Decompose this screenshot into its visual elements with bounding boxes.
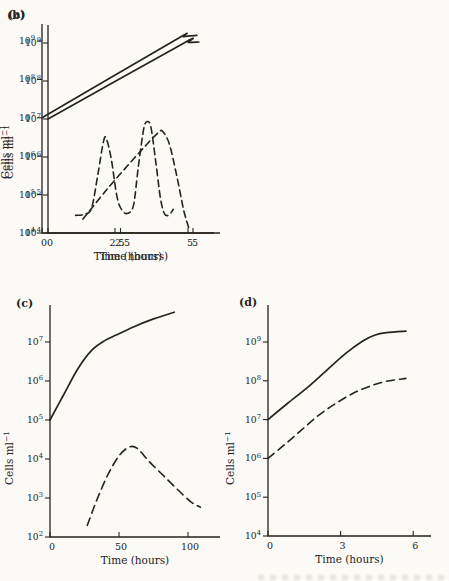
panel-letter: (c) <box>16 297 33 310</box>
x-axis-title: Time (hours) <box>315 553 383 565</box>
y-axis-title: Cells ml−1 <box>2 431 15 485</box>
cropped-caption-fragment <box>258 575 444 580</box>
x-tick-label: 100 <box>181 541 199 552</box>
panel-d-plot: 104105106107108109036Time (hours)Cells m… <box>225 290 449 581</box>
panel-letter: (b) <box>7 9 25 22</box>
y-tick-label: 106 <box>19 150 35 162</box>
dashed-series-line <box>83 130 189 227</box>
solid-series-line <box>268 331 406 419</box>
y-tick-label: 103 <box>27 491 43 503</box>
x-axis-title: Time (hours) <box>101 554 169 566</box>
dashed-series-line <box>87 446 200 525</box>
x-tick-label: 5 <box>187 237 193 248</box>
growth-chart-panel-d: 104105106107108109036Time (hours)Cells m… <box>225 290 449 581</box>
panel-c-plot: 102103104105106107050100Time (hours)Cell… <box>0 290 225 581</box>
growth-chart-panel-c: 102103104105106107050100Time (hours)Cell… <box>0 290 225 581</box>
axes <box>268 305 431 536</box>
x-tick-label: 0 <box>267 540 273 551</box>
y-tick-label: 105 <box>245 491 261 503</box>
y-tick-label: 107 <box>245 413 261 425</box>
y-tick-label: 108 <box>19 73 35 85</box>
x-tick-label: 3 <box>340 540 346 551</box>
figure-page: 10410510610710810902.55Time (hours)Cells… <box>0 0 449 581</box>
y-tick-label: 104 <box>19 226 35 238</box>
panel-letter: (d) <box>239 296 257 309</box>
y-tick-label: 107 <box>27 335 43 347</box>
y-tick-label: 104 <box>245 529 261 541</box>
y-tick-label: 106 <box>245 452 261 464</box>
x-tick-label: 6 <box>412 540 418 551</box>
y-tick-label: 106 <box>27 374 43 386</box>
y-axis-title: Cells ml−1 <box>0 125 11 179</box>
solid-series-line <box>42 33 197 117</box>
growth-chart-panel-b: 10410510610710810902.55Time (hours)Cells… <box>0 0 224 290</box>
x-tick-label: 50 <box>115 541 127 552</box>
x-tick-label: 0 <box>49 541 55 552</box>
y-tick-label: 105 <box>27 413 43 425</box>
y-tick-label: 104 <box>27 452 43 464</box>
axes <box>50 305 220 537</box>
x-tick-label: 0 <box>41 237 47 248</box>
y-tick-label: 109 <box>19 34 35 46</box>
panel-b-plot: 10410510610710810902.55Time (hours)Cells… <box>0 0 224 290</box>
x-tick-label: 2.5 <box>109 237 124 248</box>
y-tick-label: 109 <box>245 335 261 347</box>
dashed-series-line <box>268 378 406 458</box>
solid-series-line <box>50 312 174 420</box>
x-axis-title: Time (hours) <box>94 250 162 262</box>
y-tick-label: 105 <box>19 188 35 200</box>
y-axis-title: Cells ml−1 <box>225 431 236 485</box>
axes <box>42 24 214 233</box>
y-tick-label: 102 <box>27 530 43 542</box>
y-tick-label: 107 <box>19 111 35 123</box>
y-tick-label: 108 <box>245 374 261 386</box>
